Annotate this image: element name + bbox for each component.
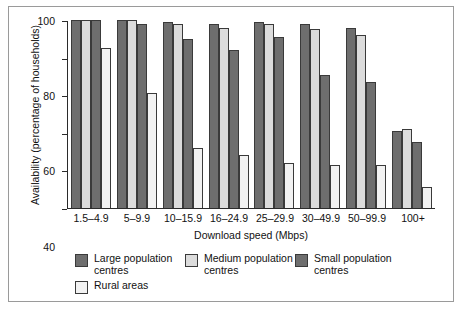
legend-label: Large population centres xyxy=(94,253,185,276)
bar xyxy=(330,165,340,208)
legend-label: Medium population centres xyxy=(204,253,295,276)
legend-item: Rural areas xyxy=(75,280,193,294)
bar xyxy=(127,20,137,208)
legend-swatch-icon xyxy=(75,254,88,267)
x-axis-title: Download speed (Mbps) xyxy=(67,229,435,241)
bar xyxy=(239,155,249,208)
bar xyxy=(412,142,422,208)
chart-figure: 020406080100 Availability (percentage of… xyxy=(8,6,454,302)
y-tick-label: 60 xyxy=(43,166,55,177)
x-tick-label: 16–24.9 xyxy=(206,212,252,224)
bar xyxy=(366,82,376,208)
bar xyxy=(183,39,193,208)
bar xyxy=(254,22,264,208)
legend-row: Large population centresMedium populatio… xyxy=(75,253,405,280)
x-tick-label: 100+ xyxy=(390,212,436,224)
bar xyxy=(274,37,284,208)
y-tick-mark: 100 xyxy=(62,21,67,22)
bar xyxy=(376,165,386,208)
bar xyxy=(392,131,402,208)
bar xyxy=(71,20,81,208)
x-tick-label: 10–15.9 xyxy=(160,212,206,224)
bar-group xyxy=(343,21,389,208)
bar xyxy=(320,75,330,208)
bar-group xyxy=(160,21,206,208)
y-tick-mark: 80 xyxy=(62,59,67,60)
x-tick-label: 30–49.9 xyxy=(298,212,344,224)
x-tick-label: 50–99.9 xyxy=(344,212,390,224)
y-tick-mark: 0 xyxy=(62,209,67,210)
legend-swatch-icon xyxy=(185,254,198,267)
bar xyxy=(163,22,173,208)
bar-group xyxy=(206,21,252,208)
bar-group xyxy=(389,21,435,208)
y-tick-mark: 60 xyxy=(62,96,67,97)
bar xyxy=(173,24,183,208)
x-tick-label: 1.5–4.9 xyxy=(68,212,114,224)
bar xyxy=(310,29,320,208)
legend-label: Rural areas xyxy=(94,280,148,292)
bar xyxy=(91,20,101,208)
bar xyxy=(422,187,432,208)
bar xyxy=(300,24,310,208)
bar xyxy=(137,24,147,208)
x-axis-line xyxy=(67,208,435,209)
bar xyxy=(101,48,111,208)
bar xyxy=(229,50,239,208)
bar-group xyxy=(114,21,160,208)
legend-swatch-icon xyxy=(295,254,308,267)
bar-group xyxy=(297,21,343,208)
plot-area: 020406080100 xyxy=(67,21,435,209)
chart-legend: Large population centresMedium populatio… xyxy=(75,253,405,298)
x-tick-label: 5–9.9 xyxy=(114,212,160,224)
bar xyxy=(209,24,219,208)
x-axis-tick-labels: 1.5–4.95–9.910–15.916–24.925–29.930–49.9… xyxy=(68,212,436,224)
legend-item: Small population centres xyxy=(295,253,405,276)
bar xyxy=(356,35,366,208)
legend-label: Small population centres xyxy=(314,253,405,276)
legend-item: Large population centres xyxy=(75,253,185,276)
bar xyxy=(117,20,127,208)
legend-item: Medium population centres xyxy=(185,253,295,276)
bar-groups xyxy=(68,21,435,208)
y-tick-label: 80 xyxy=(43,91,55,102)
bar xyxy=(402,129,412,208)
bar xyxy=(193,148,203,208)
bar xyxy=(147,93,157,208)
bar xyxy=(284,163,294,208)
x-tick-label: 25–29.9 xyxy=(252,212,298,224)
legend-row: Rural areas xyxy=(75,280,405,298)
y-axis-title: Availability (percentage of households) xyxy=(29,21,43,209)
bar-group xyxy=(68,21,114,208)
bar xyxy=(346,28,356,208)
y-tick-mark: 40 xyxy=(62,134,67,135)
bar-group xyxy=(252,21,298,208)
legend-swatch-icon xyxy=(75,281,88,294)
bar xyxy=(264,24,274,208)
y-tick-label: 40 xyxy=(43,241,55,252)
y-tick-mark: 20 xyxy=(62,171,67,172)
bar xyxy=(219,28,229,208)
bar xyxy=(81,20,91,208)
